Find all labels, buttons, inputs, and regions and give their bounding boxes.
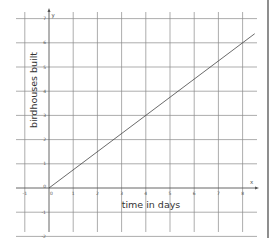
x-tick-label: 3	[120, 191, 123, 196]
y-tick-label: 2	[43, 137, 46, 142]
y-tick-label: 3	[43, 113, 46, 118]
y-tick-labels: -2-101234567	[42, 16, 47, 238]
y-variable-label: y	[52, 12, 56, 19]
x-tick-label: 2	[96, 191, 99, 196]
y-tick-label: 7	[43, 16, 46, 21]
x-axis-arrow-icon	[255, 187, 259, 190]
y-tick-label: 4	[43, 89, 46, 94]
y-tick-label: -1	[42, 210, 47, 215]
x-tick-label: 5	[169, 191, 172, 196]
y-tick-label: 6	[43, 40, 46, 45]
data-series	[49, 34, 255, 188]
x-tick-label: 0	[50, 191, 53, 196]
x-tick-label: -1	[23, 191, 28, 196]
y-tick-label: -2	[42, 234, 47, 238]
x-tick-label: 4	[144, 191, 147, 196]
x-tick-label: 8	[241, 191, 244, 196]
x-tick-label: 1	[72, 191, 75, 196]
y-axis-arrow-icon	[48, 8, 51, 12]
y-axis-title: birdhouses built	[28, 52, 39, 128]
y-tick-label: 1	[43, 161, 46, 166]
x-tick-label: 7	[217, 191, 220, 196]
x-tick-label: 6	[193, 191, 196, 196]
line-chart: -1012345678 -2-101234567 x y time in day…	[0, 0, 274, 238]
x-axis-title: time in days	[122, 199, 181, 210]
series-line	[49, 34, 255, 188]
y-tick-label: 5	[43, 65, 46, 70]
y-tick-label: 0	[43, 184, 46, 189]
x-variable-label: x	[250, 179, 254, 185]
x-tick-labels: -1012345678	[23, 191, 245, 196]
